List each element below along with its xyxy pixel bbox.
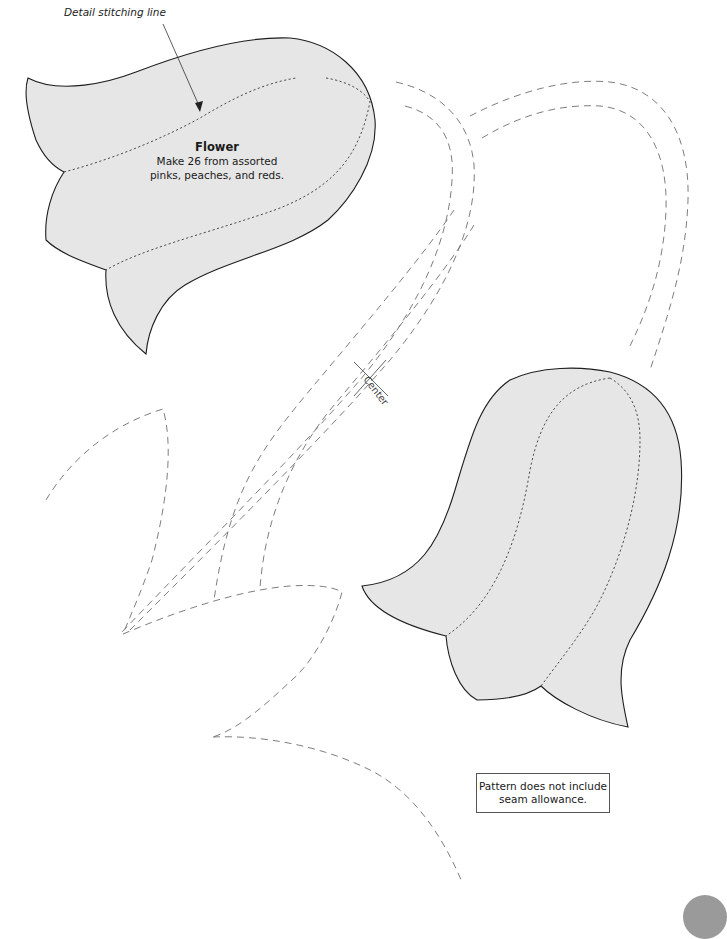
note-line2: seam allowance. <box>499 793 587 806</box>
leaf-placement-lines <box>46 409 462 882</box>
flower-piece-bottom <box>362 368 682 727</box>
piece-instructions-line1: Make 26 from assorted <box>132 155 302 169</box>
piece-instructions-line2: pinks, peaches, and reds. <box>132 169 302 183</box>
seam-allowance-note: Pattern does not include seam allowance. <box>476 773 610 813</box>
note-line1: Pattern does not include <box>479 780 607 793</box>
page-tab-icon <box>683 895 727 939</box>
flower-piece-label: Flower Make 26 from assorted pinks, peac… <box>132 140 302 182</box>
piece-title: Flower <box>132 140 302 155</box>
detail-stitching-callout: Detail stitching line <box>64 6 166 18</box>
flower-piece-top <box>26 38 375 354</box>
